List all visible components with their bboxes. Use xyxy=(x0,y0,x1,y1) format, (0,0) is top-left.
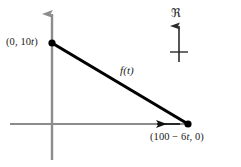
point-x-intercept xyxy=(184,120,191,127)
figure-canvas xyxy=(0,0,241,167)
label-x-intercept: (100 − 6t, 0) xyxy=(150,132,204,143)
function-line-segment xyxy=(52,43,188,124)
math-figure-container: (0, 10t) (100 − 6t, 0) f(t) ℜ xyxy=(0,0,241,167)
label-function-prefix: f( xyxy=(120,64,127,76)
label-y-intercept-suffix: ) xyxy=(34,36,38,47)
label-function-suffix: ) xyxy=(130,64,134,76)
label-x-intercept-prefix: (100 − 6 xyxy=(150,131,186,142)
label-y-intercept-prefix: (0, 10 xyxy=(6,36,31,47)
label-y-intercept: (0, 10t) xyxy=(6,37,38,48)
point-y-intercept xyxy=(48,39,55,46)
label-x-intercept-suffix: , 0) xyxy=(190,131,204,142)
fraktur-r-real-numbers-icon: ℜ xyxy=(171,7,181,19)
label-function-name: f(t) xyxy=(120,65,134,76)
